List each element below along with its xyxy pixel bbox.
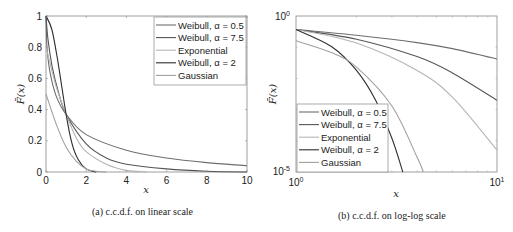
x-tick-label: 0: [43, 175, 49, 186]
right-legend: Weibull, α = 0.5Weibull, α = 7.5Exponent…: [297, 104, 388, 172]
figure: 024681000.20.40.60.81 x F̄(x) Weibull, α…: [0, 0, 513, 232]
left-chart: 024681000.20.40.60.81 x F̄(x) Weibull, α…: [15, 11, 253, 196]
y-tick-label: 0: [36, 167, 42, 178]
left-caption: (a) c.c.d.f. on linear scale: [92, 206, 193, 217]
x-tick-label: 4: [124, 175, 130, 186]
right-x-label: x: [393, 188, 399, 199]
y-tick-label: 1: [36, 11, 42, 22]
legend-entry: Weibull, α = 2: [321, 144, 379, 155]
x-tick-label: 6: [164, 175, 170, 186]
legend-entry: Weibull, α = 0.5: [321, 107, 387, 118]
right-x-tick-max: 101: [489, 176, 504, 188]
left-legend: Weibull, α = 0.5Weibull, α = 7.5Exponent…: [154, 17, 246, 85]
legend-entry: Weibull, α = 0.5: [178, 20, 244, 31]
right-y-tick-max: 100: [275, 10, 290, 22]
x-tick-label: 2: [83, 175, 89, 186]
y-tick-label: 0.8: [28, 42, 42, 53]
right-x-tick-min: 100: [288, 176, 303, 188]
right-chart: 100 10-5 100 101 x F̄(x) Weibull, α = 0.…: [267, 10, 505, 199]
y-tick-label: 0.4: [28, 104, 42, 115]
x-tick-label: 10: [241, 175, 253, 186]
y-tick-label: 0.2: [28, 135, 42, 146]
legend-entry: Gaussian: [321, 157, 361, 168]
y-tick-label: 0.6: [28, 73, 42, 84]
legend-entry: Exponential: [321, 132, 371, 143]
x-tick-label: 8: [204, 175, 210, 186]
legend-entry: Weibull, α = 7.5: [321, 119, 387, 130]
right-y-tick-min: 10-5: [273, 165, 290, 177]
left-y-label: F̄(x): [15, 84, 26, 105]
legend-entry: Weibull, α = 2: [178, 57, 236, 68]
legend-entry: Weibull, α = 7.5: [178, 32, 244, 43]
right-y-label: F̄(x): [267, 84, 278, 105]
right-caption: (b) c.c.d.f. on log-log scale: [338, 210, 446, 221]
legend-entry: Gaussian: [178, 70, 218, 81]
legend-entry: Exponential: [178, 45, 228, 56]
left-x-label: x: [143, 184, 149, 195]
